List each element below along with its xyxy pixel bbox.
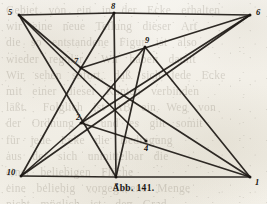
graph-node-8: [113, 12, 116, 15]
figure-page: Gebiet von ein in der Ecke erhalten wir …: [0, 0, 267, 204]
vertex-label-8: 8: [111, 2, 115, 11]
vertex-label-2: 2: [76, 113, 80, 122]
graph-edge-2-1: [81, 123, 250, 177]
graph-edge-9-1: [145, 47, 250, 177]
graph-edge-2-10: [21, 123, 81, 176]
vertex-label-4: 4: [144, 144, 148, 153]
vertex-label-10: 10: [7, 168, 16, 177]
graph-node-1: [249, 176, 252, 179]
graph-edge-8-6: [114, 13, 250, 15]
vertex-label-9: 9: [145, 36, 149, 45]
graph-edge-5-7: [19, 15, 81, 68]
graph-node-3: [115, 176, 118, 179]
graph-node-6: [249, 14, 252, 17]
graph-edge-6-10: [21, 15, 250, 176]
graph-edge-5-8: [19, 13, 114, 15]
vertex-label-5: 5: [8, 8, 12, 17]
graph-edge-10-3: [21, 176, 116, 177]
graph-edge-layer: [19, 13, 250, 177]
graph-node-9: [144, 46, 147, 49]
graph-node-2: [80, 122, 83, 125]
vertex-label-7: 7: [74, 57, 78, 66]
vertex-label-6: 6: [256, 8, 260, 17]
graph-edge-6-2: [81, 15, 250, 123]
graph-drawing: [0, 0, 267, 204]
graph-edge-6-7: [81, 15, 250, 68]
graph-edge-8-3: [114, 13, 116, 177]
graph-node-10: [20, 175, 23, 178]
graph-node-5: [18, 14, 21, 17]
graph-edge-7-10: [21, 68, 81, 176]
graph-edge-9-3: [116, 47, 145, 177]
graph-node-7: [80, 67, 83, 70]
figure-caption: Abb. 141.: [0, 183, 267, 193]
